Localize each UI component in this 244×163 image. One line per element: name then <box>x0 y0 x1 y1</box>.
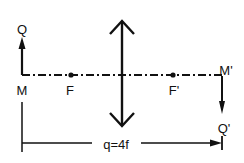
label-object-top: Q <box>17 23 27 36</box>
label-distance: q=4f <box>103 138 129 151</box>
focal-point-f <box>68 72 73 77</box>
label-image-top: Q' <box>218 122 231 135</box>
focal-point-f-prime <box>170 72 175 77</box>
label-image-base: M' <box>219 64 232 77</box>
object-arrow <box>19 37 26 75</box>
label-focal-back: F' <box>169 84 179 97</box>
image-arrow <box>219 76 225 114</box>
label-focal-front: F <box>66 84 74 97</box>
lens-diagram: Q M F F' M' Q' q=4f <box>0 0 244 163</box>
lens-icon <box>110 21 134 126</box>
label-object-base: M <box>17 84 28 97</box>
